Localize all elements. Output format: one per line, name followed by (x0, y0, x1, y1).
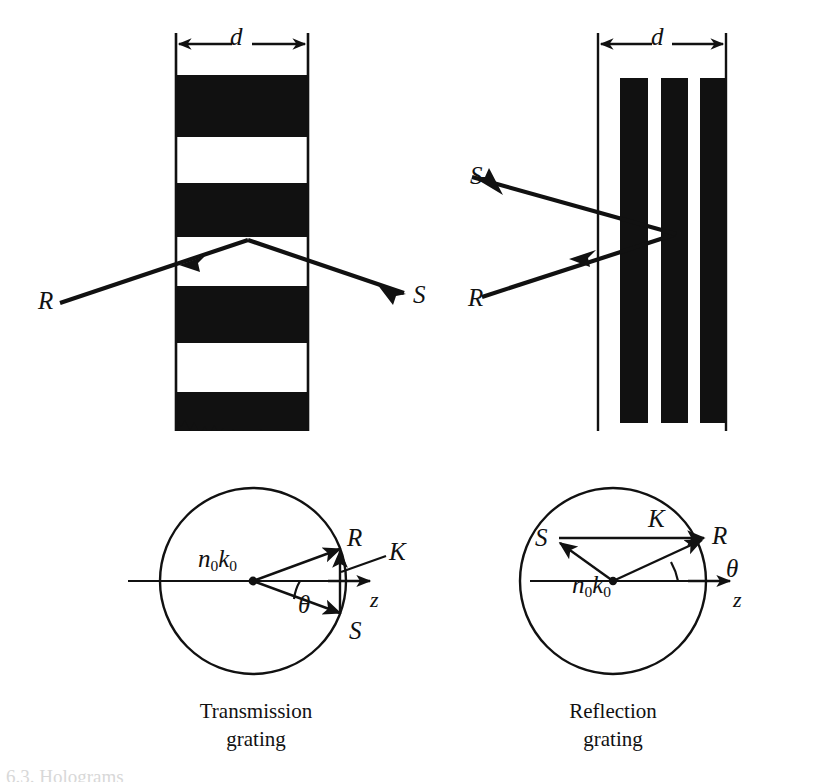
vector-label-S-bottom-left: S (349, 618, 362, 643)
beam-label-R-top-right: R (468, 285, 483, 310)
k-glyph: k (592, 571, 603, 598)
beam-label-S-top-left: S (413, 282, 426, 307)
fringe-stripe (176, 183, 308, 237)
angle-label-theta-bottom-right: θ (726, 556, 738, 581)
caption-transmission-grating: Transmission grating (176, 698, 336, 753)
reflection-fringe-stack (620, 78, 726, 423)
K-leader-line (341, 556, 386, 572)
axis-label-z-bottom-left: z (370, 589, 379, 611)
period-label-d-right: d (651, 24, 664, 49)
figure-root: d R S d R S n0k0 R S K θ z n0k0 R S K θ … (0, 0, 830, 782)
vector-label-R-bottom-right: R (712, 523, 727, 548)
fringe-stripe (661, 78, 688, 423)
radius-label-n0k0-left: n0k0 (198, 546, 237, 574)
axis-label-z-bottom-right: z (733, 589, 742, 611)
period-label-d-left: d (230, 24, 243, 49)
beam-label-R-top-left: R (38, 288, 53, 313)
diffracted-ray-S (248, 240, 404, 293)
diagram-vector-layer (0, 0, 830, 782)
beam-label-S-top-right: S (470, 163, 483, 188)
fringe-stripe (176, 286, 308, 343)
vector-label-K-bottom-left: K (389, 539, 406, 564)
n-glyph: n (198, 545, 211, 572)
transmission-wavevector-panel (128, 488, 386, 674)
transmission-grating-panel (60, 33, 406, 446)
vector-R (253, 549, 340, 581)
vector-label-R-bottom-left: R (347, 525, 362, 550)
fringe-stripe (176, 75, 308, 137)
n-glyph: n (572, 571, 585, 598)
reflection-grating-panel (472, 33, 726, 431)
caption-line-2: grating (176, 726, 336, 754)
vector-label-S-bottom-right: S (535, 525, 548, 550)
caption-line-1: Reflection (533, 698, 693, 726)
vector-label-K-bottom-right: K (648, 506, 665, 531)
reflection-wavevector-panel (520, 488, 730, 674)
radius-label-n0k0-right: n0k0 (572, 572, 611, 600)
theta-arc (671, 562, 678, 581)
caption-line-1: Transmission (176, 698, 336, 726)
k-subscript: 0 (229, 557, 237, 574)
caption-reflection-grating: Reflection grating (533, 698, 693, 753)
vector-R (613, 540, 702, 581)
fringe-stripe (700, 78, 726, 423)
caption-line-2: grating (533, 726, 693, 754)
angle-label-theta-bottom-left: θ (298, 592, 310, 617)
k-glyph: k (218, 545, 229, 572)
k-subscript: 0 (603, 583, 611, 600)
figure-caption-cutoff: 6.3. Holograms (6, 766, 124, 782)
